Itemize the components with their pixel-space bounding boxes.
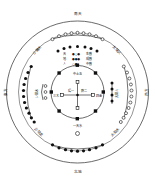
legend-glyph-0: 天 <box>63 52 66 56</box>
label-center: 中土五 <box>73 71 82 76</box>
center-cross-node-left <box>61 94 64 97</box>
center-cross-node-right <box>92 94 95 97</box>
cardinal-label-top: 南天 <box>74 11 82 16</box>
label-bottom-inner: 一天水 <box>73 123 83 128</box>
center-cross-node-up <box>76 81 79 84</box>
cosmological-diagram-root: 南天 北地 東方 西方 少陽木 太陽火 少陰金 太陰水 <box>0 0 155 178</box>
label-cross-right: 陰二 <box>81 88 87 93</box>
legend-label-1: 成數 <box>86 56 92 61</box>
cardinal-label-right: 西方 <box>144 88 149 96</box>
legend-marks-0: ●○● <box>72 52 80 56</box>
cardinal-label-left: 東方 <box>3 88 8 96</box>
right-bracket-label: 太陽火 <box>114 89 119 98</box>
bottom-solo-dot <box>76 132 80 136</box>
diagram-canvas: 南天 北地 東方 西方 少陽木 太陽火 少陰金 太陰水 <box>0 0 155 178</box>
label-right-inner: 四金 <box>96 93 102 98</box>
legend-label-2: 中數 <box>86 61 92 66</box>
center-cross-node-down <box>76 107 79 110</box>
label-cross-left: 陽一 <box>68 88 74 93</box>
cardinal-label-bottom: 北地 <box>74 169 82 174</box>
label-left-inner: 三木 <box>53 93 59 98</box>
left-bracket-label: 少陽木 <box>34 89 39 98</box>
legend-glyph-1: 地 <box>63 56 66 61</box>
legend-label-0: 生數 <box>86 51 92 56</box>
legend-glyph-2: 人 <box>63 62 66 66</box>
legend-marks-1: ●●● <box>72 57 80 61</box>
center-cross-hub <box>76 94 79 97</box>
